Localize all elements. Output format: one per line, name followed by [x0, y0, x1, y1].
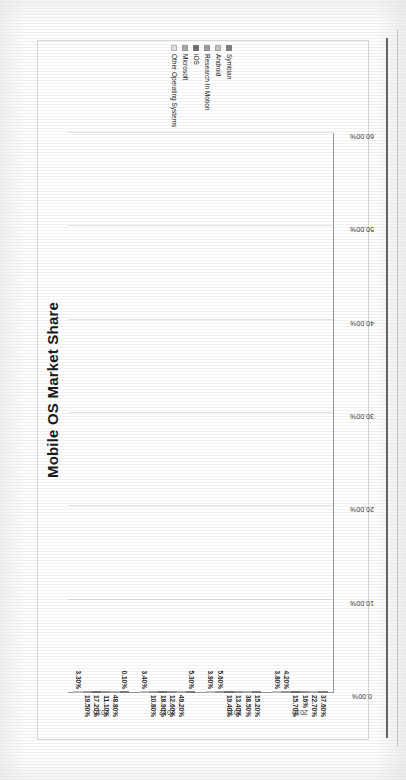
legend-swatch-icon: [227, 45, 233, 51]
bar-microsoft[interactable]: 4.20%: [281, 691, 290, 693]
legend-label: Android: [215, 54, 222, 76]
bar-other-operating-systems[interactable]: 3.40%: [140, 691, 149, 693]
bar-value-label: 12.60%: [169, 695, 176, 717]
bar-value-label: 18.90%: [159, 695, 166, 717]
bar-microsoft[interactable]: 5.60%: [215, 691, 224, 693]
bar-android[interactable]: 38.50%: [243, 691, 252, 693]
bar-microsoft[interactable]: 19.50%: [83, 691, 92, 693]
legend-label: Symbian: [226, 54, 233, 79]
bar-symbian[interactable]: 37.60%: [318, 691, 327, 693]
bar-value-label: 15.70%: [292, 695, 299, 717]
bar-value-label: 0.10%: [121, 671, 128, 689]
bar-other-operating-systems[interactable]: 3.30%: [73, 691, 82, 693]
axis-tick-label: 0.00%: [352, 693, 372, 700]
chart-legend: Other Operating SystemsMicrosoftiOSResea…: [72, 45, 332, 131]
scan-binding-edge: [386, 38, 388, 738]
rotated-chart-wrapper: Mobile OS Market Share 201037.60%22.70%1…: [37, 40, 369, 740]
bar-group-2012: 20125.30%49.20%12.60%18.90%10.80%3.40%: [134, 133, 200, 693]
bar-ios[interactable]: 17.20%: [92, 691, 101, 693]
bar-value-label: 4.20%: [282, 671, 289, 689]
bar-value-label: 3.30%: [74, 671, 81, 689]
bar-research-in-motion[interactable]: 16%: [300, 691, 309, 693]
bar-group-2015: 20150.10%48.80%11.10%17.20%19.50%3.30%: [68, 133, 134, 693]
legend-swatch-icon: [216, 45, 222, 51]
bar-ios[interactable]: 15.70%: [291, 691, 300, 693]
plot-inner: 201037.60%22.70%16%15.70%4.20%3.80%20111…: [68, 133, 334, 693]
legend-label: Research In Motion: [204, 54, 211, 110]
bar-value-label: 38.50%: [244, 695, 251, 717]
bar-value-label: 3.40%: [141, 671, 148, 689]
bar-value-label: 3.90%: [207, 671, 214, 689]
axis-tick-label: 10.00%: [350, 600, 374, 607]
bar-value-label: 16%: [301, 695, 308, 708]
plot-area: 201037.60%22.70%16%15.70%4.20%3.80%20111…: [68, 133, 334, 693]
bar-research-in-motion[interactable]: 12.60%: [167, 691, 176, 693]
bar-value-label: 15.20%: [253, 695, 260, 717]
bar-symbian[interactable]: 15.20%: [252, 691, 261, 693]
bar-value-label: 49.20%: [178, 695, 185, 717]
axis-tick-label: 40.00%: [350, 320, 374, 327]
chart-title: Mobile OS Market Share: [44, 41, 61, 739]
scan-page-edge: [397, 30, 398, 746]
bar-android[interactable]: 22.70%: [309, 691, 318, 693]
bar-other-operating-systems[interactable]: 3.90%: [206, 691, 215, 693]
bar-value-label: 10.80%: [150, 695, 157, 717]
legend-label: iOS: [193, 54, 200, 65]
legend-swatch-icon: [194, 45, 200, 51]
bar-group-2011: 201115.20%38.50%13.40%19.40%5.60%3.90%: [201, 133, 267, 693]
bar-research-in-motion[interactable]: 11.10%: [101, 691, 110, 693]
axis-tick-label: 20.00%: [350, 506, 374, 513]
scanned-page: Mobile OS Market Share 201037.60%22.70%1…: [0, 0, 406, 780]
bar-microsoft[interactable]: 10.80%: [149, 691, 158, 693]
bar-android[interactable]: 48.80%: [110, 691, 119, 693]
bar-value-label: 5.30%: [187, 671, 194, 689]
bar-value-label: 5.60%: [216, 671, 223, 689]
bar-value-label: 11.10%: [102, 695, 109, 717]
bar-ios[interactable]: 18.90%: [158, 691, 167, 693]
value-axis-ticks: 0.00%10.00%20.00%30.00%40.00%50.00%60.00…: [336, 133, 362, 693]
bar-symbian[interactable]: 0.10%: [120, 691, 129, 693]
legend-label: Microsoft: [182, 54, 189, 80]
legend-item-microsoft[interactable]: Microsoft: [182, 45, 189, 131]
legend-swatch-icon: [205, 45, 211, 51]
bar-value-label: 19.50%: [84, 695, 91, 717]
bar-value-label: 19.40%: [225, 695, 232, 717]
axis-tick-label: 30.00%: [350, 413, 374, 420]
bar-value-label: 17.20%: [93, 695, 100, 717]
legend-item-ios[interactable]: iOS: [193, 45, 200, 131]
legend-item-symbian[interactable]: Symbian: [226, 45, 233, 131]
axis-tick-label: 50.00%: [350, 226, 374, 233]
bar-research-in-motion[interactable]: 13.40%: [234, 691, 243, 693]
bar-ios[interactable]: 19.40%: [224, 691, 233, 693]
bar-value-label: 3.80%: [273, 671, 280, 689]
bar-other-operating-systems[interactable]: 3.80%: [272, 691, 281, 693]
legend-label: Other Operating Systems: [171, 54, 178, 127]
chart-canvas: Mobile OS Market Share 201037.60%22.70%1…: [37, 40, 369, 740]
bar-group-2010: 201037.60%22.70%16%15.70%4.20%3.80%: [267, 133, 333, 693]
legend-item-research-in-motion[interactable]: Research In Motion: [204, 45, 211, 131]
bar-symbian[interactable]: 5.30%: [186, 691, 195, 693]
bar-value-label: 22.70%: [310, 695, 317, 717]
legend-item-other-operating-systems[interactable]: Other Operating Systems: [171, 45, 178, 131]
bar-value-label: 48.80%: [112, 695, 119, 717]
bar-value-label: 37.60%: [320, 695, 327, 717]
legend-swatch-icon: [172, 45, 178, 51]
axis-tick-label: 60.00%: [350, 133, 374, 140]
legend-item-android[interactable]: Android: [215, 45, 222, 131]
bar-value-label: 13.40%: [235, 695, 242, 717]
bar-android[interactable]: 49.20%: [177, 691, 186, 693]
legend-swatch-icon: [183, 45, 189, 51]
